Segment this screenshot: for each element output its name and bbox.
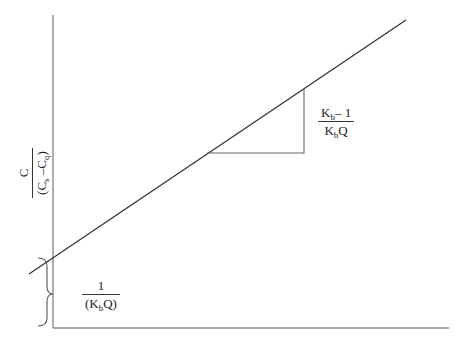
- y-axis-label: C (Cs –Cq): [15, 142, 49, 204]
- intercept-label: 1 (KbQ): [82, 277, 120, 310]
- intercept-numerator: 1: [95, 279, 108, 294]
- intercept-denominator: (KbQ): [82, 295, 120, 310]
- intercept-brace: [38, 258, 53, 326]
- y-label-denominator: (Cs –Cq): [33, 148, 48, 198]
- regression-line: [29, 20, 406, 274]
- slope-denominator: KbQ: [321, 122, 350, 137]
- diagram-canvas: [0, 0, 467, 347]
- slope-label: Kb– 1 KbQ: [318, 104, 354, 137]
- slope-numerator: Kb– 1: [318, 106, 354, 121]
- y-label-numerator: C: [17, 166, 32, 181]
